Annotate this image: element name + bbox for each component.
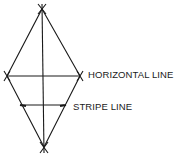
diamond-diagram: HORIZONTAL LINE STRIPE LINE [0,0,186,158]
stripe-line-label: STRIPE LINE [73,101,132,112]
stripe-tick-left [20,105,26,106]
horizontal-line-label: HORIZONTAL LINE [88,69,173,80]
stripe-tick-right [60,105,66,106]
vertical-axis-line [42,4,44,153]
